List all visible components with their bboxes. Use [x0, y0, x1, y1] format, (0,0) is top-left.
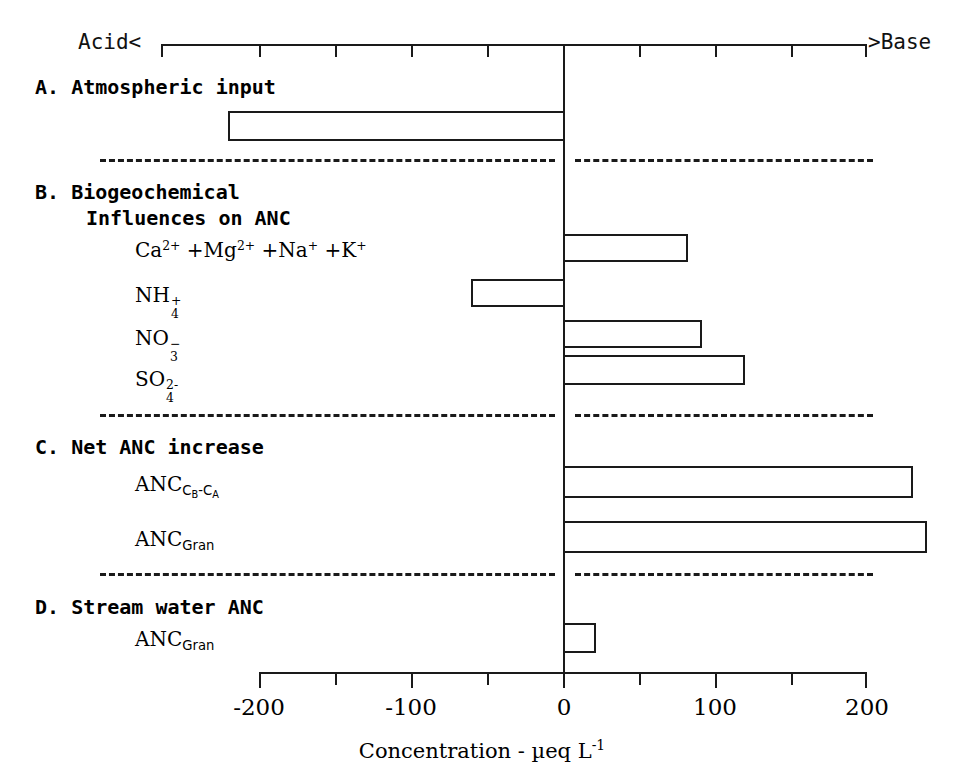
- series-label-nitrate: NO−3: [135, 326, 169, 350]
- anc-text-3: ANC: [135, 627, 182, 651]
- anc-gran-subscript-c: Gran: [182, 538, 214, 553]
- no-text: NO: [135, 326, 169, 350]
- section-separator-1-right: [575, 159, 873, 162]
- k-text: +K: [324, 238, 356, 262]
- top-axis-tick-m50: [487, 44, 489, 57]
- x-tick-label-200: 200: [817, 694, 917, 720]
- acid-direction-label: Acid<: [78, 30, 141, 54]
- top-axis-tick-50: [639, 44, 641, 57]
- top-axis-right-endcap: [865, 44, 867, 57]
- section-a-heading: A. Atmospheric input: [35, 74, 276, 100]
- section-d-heading: D. Stream water ANC: [35, 594, 264, 620]
- bar-base-cations: [563, 234, 688, 262]
- section-a-letter: A.: [35, 75, 59, 99]
- section-separator-3-left: [100, 573, 555, 576]
- series-label-base-cations: Ca2+ +Mg2+ +Na+ +K+: [135, 238, 367, 262]
- section-d-letter: D.: [35, 595, 59, 619]
- bar-anc-cb-ca: [563, 466, 913, 498]
- base-direction-label: >Base: [868, 30, 931, 54]
- x-tick-m200: [259, 672, 261, 688]
- top-axis-tick-m100: [411, 44, 413, 57]
- x-tick-label-0: 0: [514, 694, 614, 720]
- series-label-anc-gran-c: ANCGran: [135, 527, 214, 553]
- anc-sub-c2: C: [203, 483, 212, 498]
- section-a-title: Atmospheric input: [71, 75, 276, 99]
- x-tick-m150: [335, 672, 337, 685]
- top-axis-left-endcap: [161, 44, 163, 57]
- x-tick-m50: [487, 672, 489, 685]
- nh-text: NH: [135, 283, 170, 307]
- anc-text-1: ANC: [135, 472, 182, 496]
- section-c-title: Net ANC increase: [71, 435, 264, 459]
- top-axis-tick-100: [715, 44, 717, 57]
- section-separator-2-left: [100, 414, 555, 417]
- bar-anc-gran-net: [563, 521, 927, 553]
- ca-text: Ca: [135, 238, 162, 262]
- anc-sub-a: A: [212, 489, 219, 500]
- bar-stream-water-anc: [563, 623, 596, 653]
- no-subscript: 3: [170, 349, 178, 364]
- bar-sulfate: [563, 355, 745, 385]
- mg-text: +Mg: [187, 238, 237, 262]
- section-c-letter: C.: [35, 435, 59, 459]
- nh-subscript: 4: [171, 306, 179, 321]
- series-label-anc-gran-d: ANCGran: [135, 627, 214, 653]
- x-axis-title-main: Concentration - µeq L: [359, 739, 592, 763]
- section-b-heading: B. Biogeochemical: [35, 179, 240, 205]
- x-tick-200: [865, 672, 867, 688]
- x-tick-label-100: 100: [665, 694, 765, 720]
- x-tick-label-m100: -100: [361, 694, 461, 720]
- bar-nitrate: [563, 320, 702, 348]
- x-tick-100: [715, 672, 717, 688]
- x-tick-50: [639, 672, 641, 685]
- na-text: +Na: [262, 238, 308, 262]
- x-tick-150: [791, 672, 793, 685]
- series-label-anc-cb-ca: ANCCB-CA: [135, 472, 219, 500]
- section-b-title-line1: Biogeochemical: [71, 180, 240, 204]
- anc-text-2: ANC: [135, 527, 182, 551]
- section-d-title: Stream water ANC: [71, 595, 264, 619]
- section-b-heading-line2: Influences on ANC: [86, 205, 291, 231]
- x-tick-0: [563, 672, 565, 688]
- anc-bar-chart-figure: Acid< >Base A. Atmospheric input B. Biog…: [0, 0, 964, 781]
- section-c-heading: C. Net ANC increase: [35, 434, 264, 460]
- x-tick-label-m200: -200: [209, 694, 309, 720]
- series-label-ammonium: NH+4: [135, 283, 170, 307]
- na-charge: +: [308, 238, 318, 253]
- section-separator-1-left: [100, 159, 555, 162]
- x-axis-title-exponent: -1: [592, 737, 606, 753]
- x-axis-title: Concentration - µeq L-1: [0, 737, 964, 763]
- top-axis-tick-m150: [335, 44, 337, 57]
- section-b-title-line2: Influences on ANC: [86, 206, 291, 230]
- so-text: SO: [135, 367, 165, 391]
- section-b-letter: B.: [35, 180, 59, 204]
- bar-atmospheric-input: [228, 111, 565, 141]
- ca-charge: 2+: [162, 238, 180, 253]
- top-axis-tick-m200: [259, 44, 261, 57]
- section-separator-2-right: [575, 414, 873, 417]
- top-axis-tick-150: [791, 44, 793, 57]
- section-separator-3-right: [575, 573, 873, 576]
- series-label-sulfate: SO2-4: [135, 367, 165, 391]
- anc-cbca-subscript: CB-CA: [182, 483, 219, 498]
- bar-ammonium: [471, 279, 565, 307]
- k-charge: +: [356, 238, 366, 253]
- so-subscript: 4: [166, 390, 174, 405]
- anc-gran-subscript-d: Gran: [182, 638, 214, 653]
- top-axis-line: [161, 44, 867, 46]
- mg-charge: 2+: [237, 238, 255, 253]
- x-tick-m100: [411, 672, 413, 688]
